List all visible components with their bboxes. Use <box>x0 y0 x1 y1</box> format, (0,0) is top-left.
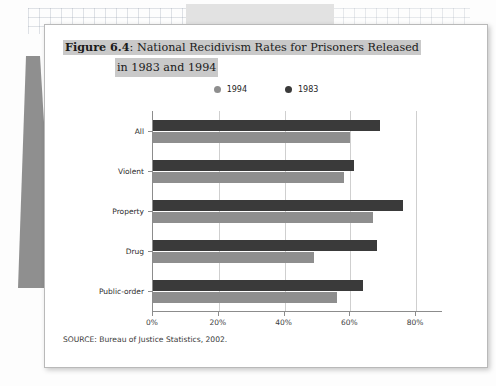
x-axis-tick <box>218 311 219 316</box>
figure-card: Figure 6.4: National Recidivism Rates fo… <box>44 24 488 368</box>
bar-1983-public-order[interactable] <box>153 280 363 291</box>
x-axis-label: 0% <box>146 318 158 327</box>
x-axis-label: 60% <box>341 318 358 327</box>
x-axis-label: 80% <box>407 318 424 327</box>
x-axis-tick <box>152 311 153 316</box>
y-axis-label-all: All <box>135 127 144 136</box>
x-axis-tick <box>415 311 416 316</box>
x-axis-label: 20% <box>209 318 226 327</box>
y-axis-label-violent: Violent <box>118 167 144 176</box>
source-note: SOURCE: Bureau of Justice Statistics, 20… <box>63 335 227 344</box>
bar-1983-property[interactable] <box>153 200 403 211</box>
y-axis-label-public-order: Public-order <box>99 287 144 296</box>
bar-1994-public-order[interactable] <box>153 292 337 303</box>
bar-1994-violent[interactable] <box>153 172 344 183</box>
bar-1994-drug[interactable] <box>153 252 314 263</box>
y-axis-label-drug: Drug <box>126 247 144 256</box>
chart-plot-wrapper: AllViolentPropertyDrugPublic-order 0%20%… <box>45 25 489 369</box>
x-axis-line <box>152 311 442 312</box>
x-axis-tick <box>284 311 285 316</box>
bar-1983-drug[interactable] <box>153 240 377 251</box>
bar-1994-property[interactable] <box>153 212 373 223</box>
chart-plot-area: AllViolentPropertyDrugPublic-order <box>152 111 415 311</box>
gridline-80 <box>416 111 417 311</box>
bar-1983-all[interactable] <box>153 120 380 131</box>
bar-1983-violent[interactable] <box>153 160 354 171</box>
x-axis-label: 40% <box>275 318 292 327</box>
top-gray-band <box>186 4 334 26</box>
y-axis-label-property: Property <box>112 207 144 216</box>
bar-1994-all[interactable] <box>153 132 350 143</box>
x-axis-tick <box>349 311 350 316</box>
